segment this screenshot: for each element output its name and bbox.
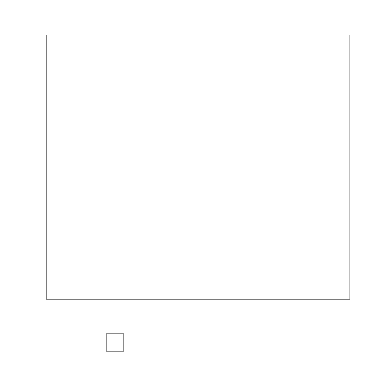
chart-legend [106, 333, 124, 352]
stacked-area-series [46, 35, 350, 299]
x-axis-line [46, 299, 350, 300]
y-axis-line [46, 35, 47, 300]
chart-container [0, 0, 372, 366]
plot-right-border [349, 35, 350, 299]
